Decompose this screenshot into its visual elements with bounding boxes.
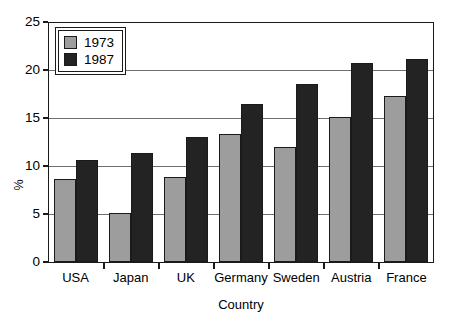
bar-germany-1987: [241, 104, 263, 262]
bar-germany-1973: [219, 134, 241, 262]
legend-entry-1987: 1987: [64, 51, 114, 68]
legend-label-1987: 1987: [84, 53, 114, 67]
bar-japan-1987: [131, 153, 153, 262]
x-label-uk: UK: [158, 270, 213, 290]
bar-group-sweden: [268, 23, 323, 262]
legend-swatch-1973: [64, 36, 77, 49]
x-axis-labels: USA Japan UK Germany Sweden Austria Fran…: [48, 270, 434, 290]
bar-usa-1973: [54, 179, 76, 262]
legend-inner: 1973 1987: [58, 30, 123, 72]
y-tick-label-5: 5: [4, 207, 40, 221]
legend-label-1973: 1973: [84, 36, 114, 50]
plot-area: 1973 1987: [48, 22, 434, 263]
x-tick-mark-1: [103, 263, 105, 269]
x-label-france: France: [379, 270, 434, 290]
bar-sweden-1973: [274, 147, 296, 262]
x-axis-title: Country: [48, 297, 434, 312]
bar-france-1973: [384, 96, 406, 262]
legend-entry-1973: 1973: [64, 34, 114, 51]
x-tick-mark-5: [323, 263, 325, 269]
x-tick-mark-4: [268, 263, 270, 269]
x-label-germany: Germany: [213, 270, 268, 290]
bar-france-1987: [406, 59, 428, 262]
y-tick-label-20: 20: [4, 63, 40, 77]
y-axis-title: %: [12, 165, 26, 205]
y-tick-label-0: 0: [4, 255, 40, 269]
y-tick-label-15: 15: [4, 111, 40, 125]
y-tick-label-25: 25: [4, 15, 40, 29]
bar-chart: 25 20 15 10 5 0 %: [0, 0, 450, 323]
bar-group-germany: [214, 23, 269, 262]
bar-uk-1973: [164, 177, 186, 262]
x-label-austria: Austria: [324, 270, 379, 290]
bar-austria-1973: [329, 117, 351, 262]
x-label-sweden: Sweden: [269, 270, 324, 290]
x-label-japan: Japan: [103, 270, 158, 290]
bar-group-france: [378, 23, 433, 262]
bar-japan-1973: [109, 213, 131, 263]
bar-austria-1987: [351, 63, 373, 262]
x-tick-mark-3: [213, 263, 215, 269]
bar-group-austria: [323, 23, 378, 262]
bar-group-uk: [159, 23, 214, 262]
legend-swatch-1987: [64, 53, 77, 66]
x-label-usa: USA: [48, 270, 103, 290]
legend: 1973 1987: [55, 27, 126, 75]
x-tick-mark-6: [378, 263, 380, 269]
bar-usa-1987: [76, 160, 98, 262]
x-tick-mark-2: [158, 263, 160, 269]
bar-uk-1987: [186, 137, 208, 262]
bar-sweden-1987: [296, 84, 318, 262]
